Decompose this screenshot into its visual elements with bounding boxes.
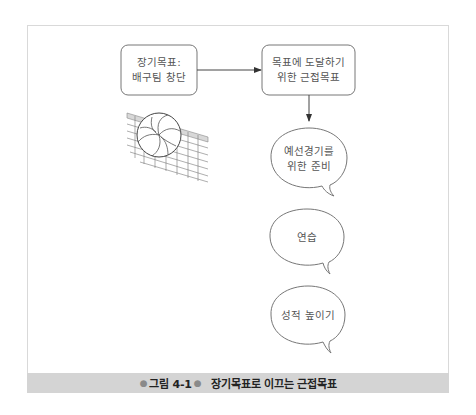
bubble-2-line-1: 연습 xyxy=(297,231,317,243)
speech-bubble-2: 연습 xyxy=(270,209,344,274)
proximal-goal-box: 목표에 도달하기 위한 근접목표 xyxy=(262,45,355,95)
bubble-3-line-1: 성적 높이기 xyxy=(281,309,334,321)
long-term-goal-line-1: 장기목표: xyxy=(137,56,181,68)
caption-number: 그림 4-1 xyxy=(149,375,192,391)
speech-bubble-1: 예선경기를 위한 준비 xyxy=(271,128,347,196)
speech-bubble-3: 성적 높이기 xyxy=(271,286,345,353)
caption-bullet-icon: ● xyxy=(194,378,202,388)
caption-title: 장기목표로 이끄는 근접목표 xyxy=(211,375,336,391)
long-term-goal-box: 장기목표: 배구팀 창단 xyxy=(121,45,197,95)
long-term-goal-line-2: 배구팀 창단 xyxy=(132,71,185,83)
proximal-goal-line-2: 위한 근접목표 xyxy=(277,71,340,83)
caption-bullet-icon: ● xyxy=(140,378,148,388)
volleyball-net-icon xyxy=(127,113,208,182)
bubble-1-line-1: 예선경기를 xyxy=(284,145,334,157)
proximal-goal-line-1: 목표에 도달하기 xyxy=(272,56,345,68)
bubble-1-line-2: 위한 준비 xyxy=(287,160,330,172)
figure-caption: ● 그림 4-1 ● 장기목표로 이끄는 근접목표 xyxy=(27,373,449,393)
diagram-canvas: 장기목표: 배구팀 창단 목표에 도달하기 위한 근접목표 예선경기를 위한 준… xyxy=(0,0,476,415)
